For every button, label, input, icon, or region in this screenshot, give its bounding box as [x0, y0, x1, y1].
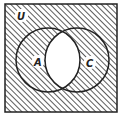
- set-c-label: C: [86, 58, 94, 69]
- universe-label: U: [17, 11, 25, 22]
- venn-diagram: U A C: [0, 0, 120, 118]
- set-a-label: A: [33, 57, 42, 68]
